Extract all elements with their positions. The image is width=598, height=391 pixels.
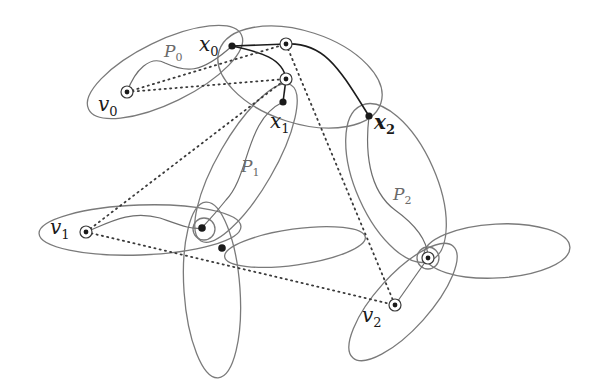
hyperedge-p2: [325, 89, 467, 277]
node-d: [218, 244, 226, 252]
label-v1: v1: [50, 215, 70, 242]
label-v0: v0: [98, 92, 118, 119]
hyperedge-p0: [75, 7, 255, 137]
label-x1: x1: [270, 109, 290, 136]
hypergraph-figure: v0 x0 x1 x2 v1 v2 P0 P1 P2: [0, 0, 598, 391]
node-c: [198, 224, 206, 232]
dotted-v0-b: [127, 79, 286, 92]
label-x0: x0: [199, 32, 219, 59]
node-b: [284, 77, 289, 82]
node-a: [284, 42, 289, 47]
node-v1: [84, 230, 89, 235]
node-v0: [125, 90, 130, 95]
hyperedge-e-right: [423, 220, 572, 282]
path-e-v2: [395, 258, 428, 305]
node-v2: [393, 303, 398, 308]
label-p2: P2: [392, 184, 411, 207]
hyperedges: [38, 7, 571, 380]
node-e: [426, 256, 431, 261]
label-p1: P1: [240, 156, 259, 179]
diagram-svg: v0 x0 x1 x2 v1 v2 P0 P1 P2: [0, 0, 598, 391]
node-x1: [279, 98, 286, 105]
hyperedge-right-of-d: [222, 219, 368, 274]
dotted-a-v2: [286, 44, 395, 305]
label-v2: v2: [362, 303, 382, 330]
hyperedge-v2: [333, 228, 473, 376]
node-x2: [365, 112, 372, 119]
label-p0: P0: [163, 41, 182, 64]
node-x0: [228, 42, 235, 49]
label-x2: x2: [373, 110, 395, 137]
